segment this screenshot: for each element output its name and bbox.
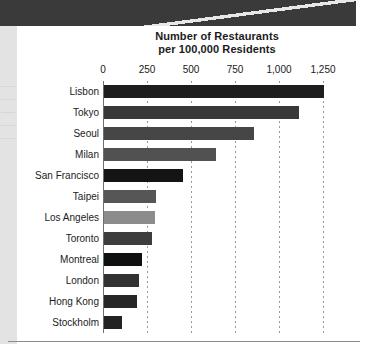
bar [104,253,142,266]
x-tick-label: 1,250 [310,64,335,75]
bar [104,211,155,224]
category-label: Los Angeles [0,212,99,223]
chart-title: Number of Restaurants per 100,000 Reside… [77,30,357,56]
chart-bar-row: San Francisco [17,165,366,186]
bar [104,127,254,140]
chart-bar-row: Montreal [17,249,366,270]
category-label: Hong Kong [0,296,99,307]
chart-bar-row: Hong Kong [17,291,366,312]
x-tick-label: 750 [227,64,244,75]
bar [104,274,139,287]
page-bottom-rule [8,341,360,342]
bar [104,232,152,245]
chart-bar-row: Milan [17,144,366,165]
bar [104,316,122,329]
bar [104,169,183,182]
x-tick-label: 1,000 [266,64,291,75]
chart-bar-row: Stockholm [17,312,366,333]
chart-bar-row: Seoul [17,123,366,144]
x-tick-label: 500 [183,64,200,75]
bar [104,148,216,161]
chart-bar-row: Toronto [17,228,366,249]
category-label: Tokyo [0,107,99,118]
chart-bar-row: Lisbon [17,81,366,102]
page-root: Number of Restaurants per 100,000 Reside… [0,0,366,352]
chart-bar-row: London [17,270,366,291]
category-label: Milan [0,149,99,160]
bar [104,295,137,308]
category-label: Seoul [0,128,99,139]
x-axis-tick-labels: 02505007501,0001,250 [17,64,366,80]
x-tick-label: 0 [100,64,106,75]
chart-bar-rows: LisbonTokyoSeoulMilanSan FranciscoTaipei… [17,81,366,333]
chart-title-line-2: per 100,000 Residents [77,43,357,56]
category-label: San Francisco [0,170,99,181]
category-label: Stockholm [0,317,99,328]
chart-plot-area: 02505007501,0001,250 LisbonTokyoSeoulMil… [17,64,366,334]
category-label: London [0,275,99,286]
x-tick-label: 250 [139,64,156,75]
banner-diagonal-stripe [120,0,356,26]
bar [104,106,299,119]
bar [104,85,324,98]
chart-title-line-1: Number of Restaurants [77,30,357,43]
chart-bar-row: Tokyo [17,102,366,123]
bar [104,190,156,203]
category-label: Lisbon [0,86,99,97]
chart-figure: Number of Restaurants per 100,000 Reside… [17,26,366,341]
category-label: Montreal [0,254,99,265]
category-label: Toronto [0,233,99,244]
chart-bar-row: Los Angeles [17,207,366,228]
chart-bar-row: Taipei [17,186,366,207]
category-label: Taipei [0,191,99,202]
page-top-banner [0,0,356,26]
